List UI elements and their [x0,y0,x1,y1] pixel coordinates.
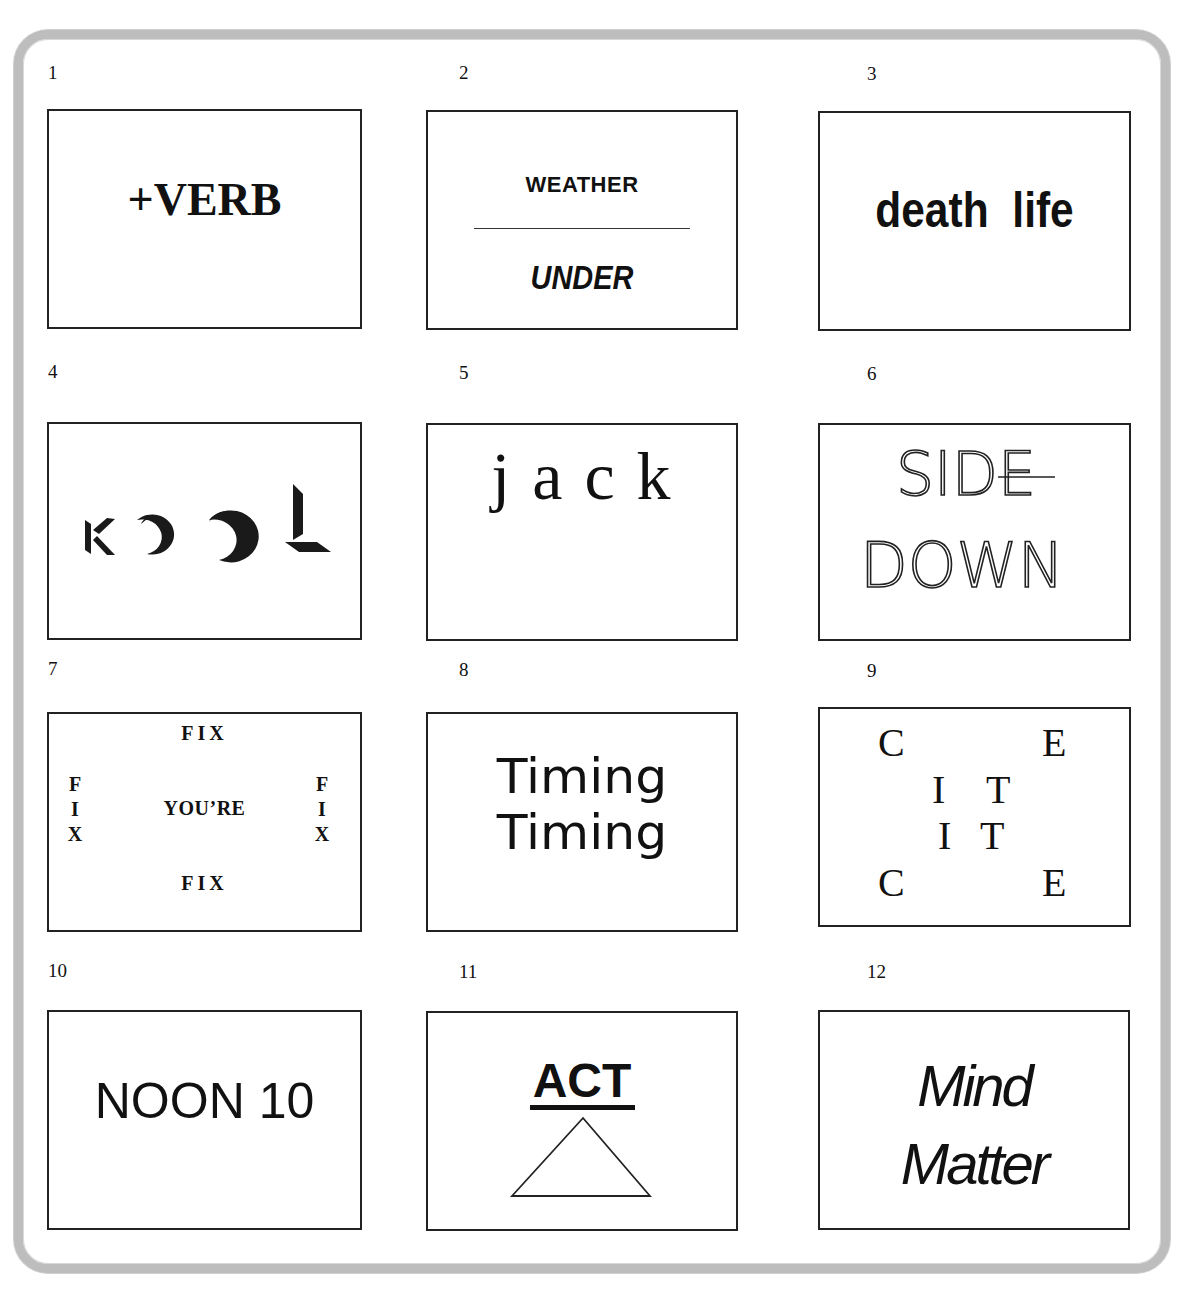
triangle-icon [428,1013,738,1231]
letter-e: E [1042,859,1066,906]
puzzle-text: jack [428,437,736,516]
side-text: SIDE [896,439,1036,509]
puzzle-number: 9 [867,660,877,682]
fix-bottom: FIX [49,872,360,895]
puzzle-panel-9: C E I T I T C E [818,707,1131,927]
down-text: DOWN [860,529,1064,602]
puzzle-panel-8: Timing Timing [426,712,738,932]
puzzle-panel-1: +VERB [47,109,362,329]
puzzle-panel-10: NOON 10 [47,1010,362,1230]
puzzle-panel-11: ACT [426,1011,738,1231]
letter-i: I [932,766,945,813]
timing-line-2: Timing [426,804,738,860]
letter-c: C [878,719,905,766]
letter-e: E [1042,719,1066,766]
puzzle-panel-3: death life [818,111,1131,331]
puzzle-number: 11 [459,961,477,983]
puzzle-text: NOON 10 [49,1072,360,1130]
puzzle-number: 7 [48,658,58,680]
letter-c: C [878,859,905,906]
puzzle-number: 2 [459,62,469,84]
letter-t: T [986,766,1010,813]
fix-right: FIX [312,772,332,847]
letter-i: I [938,812,951,859]
divider-line [474,228,690,229]
puzzle-number: 1 [48,62,58,84]
timing-line-1: Timing [426,748,738,804]
puzzle-number: 8 [459,659,469,681]
puzzle-number: 12 [867,961,886,983]
puzzle-text: +VERB [49,173,360,226]
puzzle-top-text: WEATHER [428,172,736,198]
puzzle-text: death life [843,181,1106,239]
puzzle-number: 5 [459,362,469,384]
puzzle-panel-12: Mind Matter [818,1010,1130,1230]
puzzle-number: 6 [867,363,877,385]
matter-text: Matter [820,1130,1128,1197]
puzzle-panel-2: WEATHER UNDER [426,110,738,330]
side-down-graphic: SIDE DOWN [820,425,1131,641]
puzzle-number: 3 [867,63,877,85]
puzzle-panel-4 [47,422,362,640]
puzzle-number: 10 [48,960,67,982]
mind-text: Mind [820,1052,1128,1119]
puzzle-panel-5: jack [426,423,738,641]
puzzle-panel-7: FIX FIX YOU’RE FIX FIX [47,712,362,932]
fix-top: FIX [49,722,360,745]
puzzle-number: 4 [48,361,58,383]
letter-t: T [980,812,1004,859]
puzzle-panel-6: SIDE DOWN [818,423,1131,641]
kool-shadow-letters-graphic [49,424,362,640]
puzzle-bottom-text: UNDER [451,258,713,297]
